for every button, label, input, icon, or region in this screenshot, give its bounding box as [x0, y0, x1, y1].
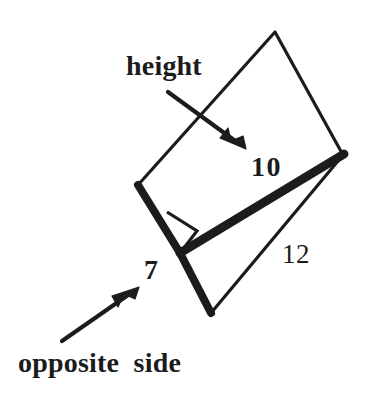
- side-length-label-12: 12: [282, 241, 310, 268]
- opposite-side-label: opposite side: [18, 349, 181, 377]
- opposite-side-callout-arrow-icon: [62, 287, 139, 341]
- geometry-diagram: height 10 12 7 opposite side: [0, 0, 372, 398]
- edge-base-7: [138, 185, 211, 313]
- base-length-label-7: 7: [144, 256, 158, 284]
- height-label: height: [126, 52, 202, 80]
- side-length-label-10: 10: [251, 153, 282, 181]
